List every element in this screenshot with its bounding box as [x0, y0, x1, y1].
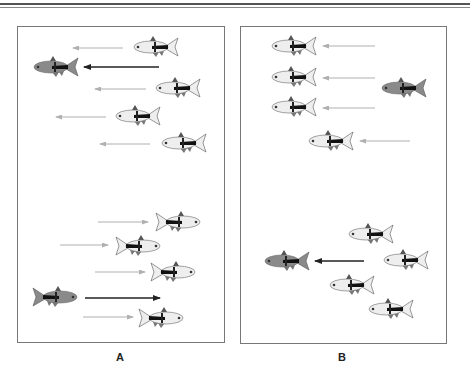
leader-fish-icon [382, 77, 426, 98]
fish-layer [33, 35, 428, 328]
leader-fish-icon [33, 286, 77, 307]
follower-fish-icon [151, 261, 195, 282]
follower-fish-icon [156, 211, 200, 232]
follower-fish-icon [116, 235, 160, 256]
leader-fish-icon [265, 250, 309, 271]
leader-fish-icon [34, 56, 78, 77]
fish-scene [0, 0, 470, 371]
arrows-layer [56, 46, 410, 317]
follower-fish-icon [384, 249, 428, 270]
follower-fish-icon [369, 298, 413, 319]
follower-fish-icon [134, 36, 178, 57]
follower-fish-icon [272, 96, 316, 117]
follower-fish-icon [156, 77, 200, 98]
follower-fish-icon [349, 223, 393, 244]
follower-fish-icon [116, 105, 160, 126]
follower-fish-icon [139, 307, 183, 328]
follower-fish-icon [272, 66, 316, 87]
follower-fish-icon [162, 132, 206, 153]
follower-fish-icon [330, 274, 374, 295]
follower-fish-icon [309, 130, 353, 151]
follower-fish-icon [272, 35, 316, 56]
